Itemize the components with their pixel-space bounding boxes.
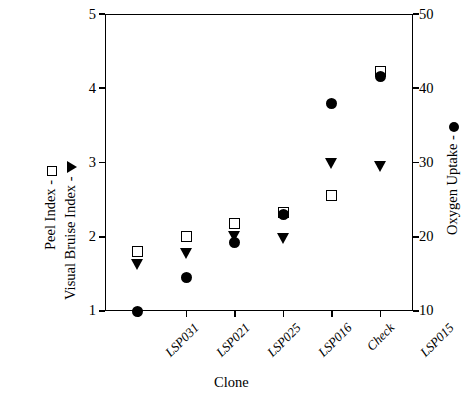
filled-triangle-down-marker <box>325 158 337 169</box>
x-tick-label-2: LSP025 <box>264 320 304 360</box>
x-tick-label-1: LSP021 <box>213 320 253 360</box>
axis-tick <box>413 310 419 312</box>
y-right-tick-50: 50 <box>419 7 447 22</box>
filled-triangle-down-marker <box>180 248 192 259</box>
left-axis-title-peel: Peel Index - <box>42 166 59 250</box>
filled-circle-marker <box>375 71 386 82</box>
axis-tick <box>186 311 188 317</box>
open-square-marker <box>229 218 240 229</box>
filled-triangle-down-marker <box>277 233 289 244</box>
right-axis-title-text: Oxygen Uptake - <box>444 132 460 235</box>
open-square-marker <box>326 190 337 201</box>
y-left-tick-1: 1 <box>72 303 96 318</box>
filled-circle-marker <box>181 272 192 283</box>
open-square-marker <box>132 246 143 257</box>
axis-tick <box>137 311 139 317</box>
filled-triangle-down-marker <box>374 161 386 172</box>
axis-tick <box>413 162 419 164</box>
axis-tick <box>99 310 105 312</box>
x-tick-label-4: Check <box>364 320 398 354</box>
x-tick-label-3: LSP016 <box>315 320 355 360</box>
y-left-tick-4: 4 <box>72 81 96 96</box>
axis-tick <box>283 311 285 317</box>
axis-tick <box>331 311 333 317</box>
y-left-tick-3: 3 <box>72 155 96 170</box>
left-axis-title-peel-text: Peel Index - <box>42 176 58 250</box>
axis-tick <box>413 236 419 238</box>
y-left-tick-2: 2 <box>72 229 96 244</box>
right-axis-title: Oxygen Uptake - <box>444 122 461 235</box>
open-square-icon <box>47 166 57 176</box>
axis-tick <box>99 236 105 238</box>
y-right-tick-30: 30 <box>419 155 447 170</box>
y-right-tick-10: 10 <box>419 303 447 318</box>
filled-circle-marker <box>278 209 289 220</box>
axis-tick <box>413 87 419 89</box>
axis-tick <box>413 13 419 15</box>
x-tick-label-0: LSP031 <box>162 320 202 360</box>
y-right-tick-20: 20 <box>419 229 447 244</box>
axis-tick <box>234 311 236 317</box>
y-left-tick-5: 5 <box>72 7 96 22</box>
y-right-tick-40: 40 <box>419 81 447 96</box>
axis-tick <box>99 162 105 164</box>
plot-area <box>105 14 413 311</box>
filled-triangle-down-marker <box>131 259 143 270</box>
axis-tick <box>380 311 382 317</box>
open-square-marker <box>181 231 192 242</box>
axis-tick <box>99 13 105 15</box>
filled-circle-icon <box>449 122 459 132</box>
x-axis-title: Clone <box>214 374 249 391</box>
x-tick-label-5: LSP015 <box>417 320 457 360</box>
axis-tick <box>99 87 105 89</box>
